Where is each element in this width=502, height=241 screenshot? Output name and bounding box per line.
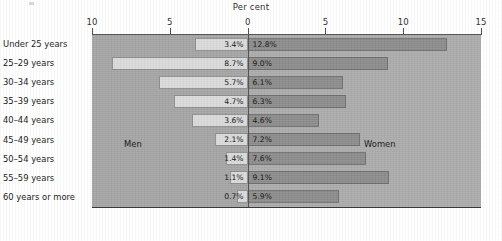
zero-axis-line bbox=[248, 35, 249, 207]
bar-row: 5.7%6.1% bbox=[92, 73, 481, 92]
category-label: Under 25 years bbox=[3, 39, 88, 49]
bar-row: 0.7%5.9% bbox=[92, 188, 481, 207]
category-label: 45–49 years bbox=[3, 135, 88, 145]
x-axis-tick-label: 10 bbox=[398, 17, 409, 27]
bar-value-label-women: 7.6% bbox=[253, 153, 311, 164]
x-axis-tick bbox=[92, 28, 93, 35]
chart-container: Per cent 105051015 Under 25 years25–29 y… bbox=[0, 0, 502, 241]
bar-row: 8.7%9.0% bbox=[92, 54, 481, 73]
category-label: 50–54 years bbox=[3, 154, 88, 164]
bar-value-label-men: 4.7% bbox=[186, 96, 244, 107]
bar-value-label-women: 9.1% bbox=[253, 172, 311, 183]
bar-row: 4.7%6.3% bbox=[92, 92, 481, 111]
x-axis-tick bbox=[325, 28, 326, 35]
bar-value-label-women: 4.6% bbox=[253, 115, 311, 126]
axis-title: Per cent bbox=[0, 2, 502, 12]
bar-row: 1.1%9.1% bbox=[92, 169, 481, 188]
plot-area: 3.4%12.8%8.7%9.0%5.7%6.1%4.7%6.3%3.6%4.6… bbox=[92, 35, 481, 208]
series-annotation-women: Women bbox=[364, 139, 396, 149]
bar-rows: 3.4%12.8%8.7%9.0%5.7%6.1%4.7%6.3%3.6%4.6… bbox=[92, 35, 481, 207]
x-axis-tick-label: 10 bbox=[87, 17, 98, 27]
bar-row: 3.6%4.6% bbox=[92, 111, 481, 130]
x-axis-tick-label: 5 bbox=[323, 17, 328, 27]
bar-value-label-men: 3.4% bbox=[186, 39, 244, 50]
x-axis-tick bbox=[481, 28, 482, 35]
category-label: 25–29 years bbox=[3, 58, 88, 68]
bar-value-label-men: 0.7% bbox=[186, 191, 244, 202]
category-label: 60 years or more bbox=[3, 192, 88, 202]
category-label: 40–44 years bbox=[3, 115, 88, 125]
bar-value-label-men: 3.6% bbox=[186, 115, 244, 126]
bar-value-label-women: 6.3% bbox=[253, 96, 311, 107]
bar-row: 3.4%12.8% bbox=[92, 35, 481, 54]
category-axis-labels: Under 25 years25–29 years30–34 years35–3… bbox=[0, 35, 88, 207]
bar-value-label-women: 7.2% bbox=[253, 134, 311, 145]
bar-value-label-men: 5.7% bbox=[186, 77, 244, 88]
x-axis-tick bbox=[248, 28, 249, 35]
x-axis-tick bbox=[403, 28, 404, 35]
x-axis-tick-label: 0 bbox=[245, 17, 250, 27]
bar-value-label-men: 1.1% bbox=[186, 172, 244, 183]
bar-row: 2.1%7.2% bbox=[92, 131, 481, 150]
x-axis-tick bbox=[170, 28, 171, 35]
bar-value-label-women: 5.9% bbox=[253, 191, 311, 202]
category-label: 35–39 years bbox=[3, 96, 88, 106]
bar-value-label-men: 1.4% bbox=[186, 153, 244, 164]
bar-row: 1.4%7.6% bbox=[92, 150, 481, 169]
x-axis-tick-label: 5 bbox=[167, 17, 172, 27]
category-label: 55–59 years bbox=[3, 173, 88, 183]
bar-value-label-women: 6.1% bbox=[253, 77, 311, 88]
bar-value-label-men: 2.1% bbox=[186, 134, 244, 145]
bar-value-label-men: 8.7% bbox=[186, 58, 244, 69]
bar-value-label-women: 12.8% bbox=[253, 39, 311, 50]
series-annotation-men: Men bbox=[124, 139, 142, 149]
category-label: 30–34 years bbox=[3, 77, 88, 87]
bar-value-label-women: 9.0% bbox=[253, 58, 311, 69]
x-axis-tick-label: 15 bbox=[476, 17, 487, 27]
